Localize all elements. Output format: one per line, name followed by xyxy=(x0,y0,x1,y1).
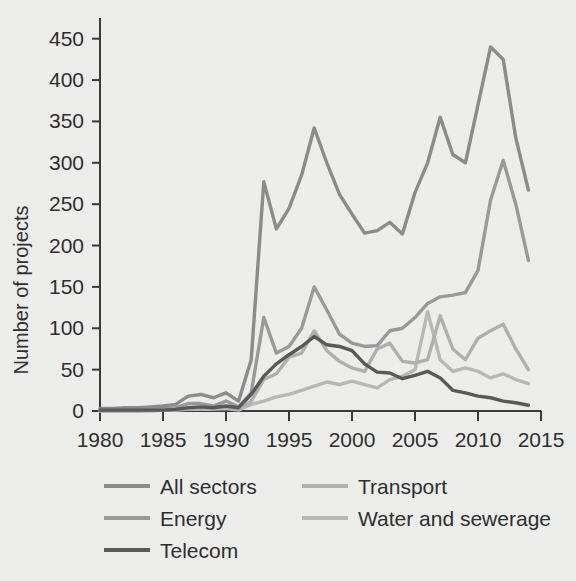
legend-label: Transport xyxy=(358,475,447,498)
x-tick-label: 1980 xyxy=(77,428,124,451)
x-tick-label: 2000 xyxy=(329,428,376,451)
legend-label: All sectors xyxy=(160,475,257,498)
x-tick-label: 1995 xyxy=(266,428,313,451)
legend-label: Water and sewerage xyxy=(358,507,551,530)
series-line-transport xyxy=(100,316,528,411)
y-tick-label: 200 xyxy=(49,234,84,257)
legend-item-water-and-sewerage[interactable]: Water and sewerage xyxy=(302,507,551,530)
y-axis-ticks: 050100150200250300350400450 xyxy=(49,27,100,422)
x-axis-ticks: 19801985199019952000200520102015 xyxy=(77,411,565,451)
y-tick-label: 350 xyxy=(49,109,84,132)
legend-label: Energy xyxy=(160,507,227,530)
chart-legend: All sectorsEnergyTelecomTransportWater a… xyxy=(0,462,576,581)
y-tick-label: 0 xyxy=(72,399,84,422)
series-line-telecom xyxy=(100,337,528,411)
y-tick-label: 50 xyxy=(61,358,84,381)
legend-item-transport[interactable]: Transport xyxy=(302,475,447,498)
legend-item-energy[interactable]: Energy xyxy=(104,507,227,530)
y-tick-label: 450 xyxy=(49,27,84,50)
x-tick-label: 2015 xyxy=(518,428,565,451)
series-line-water-and-sewerage xyxy=(100,312,528,411)
chart-figure: Number of projects 050100150200250300350… xyxy=(0,0,576,581)
y-tick-label: 300 xyxy=(49,151,84,174)
series-line-all-sectors xyxy=(100,47,528,409)
data-series-group xyxy=(100,47,528,411)
y-tick-label: 150 xyxy=(49,275,84,298)
legend-label: Telecom xyxy=(160,539,238,562)
y-tick-label: 250 xyxy=(49,192,84,215)
x-tick-label: 2010 xyxy=(455,428,502,451)
x-tick-label: 1985 xyxy=(140,428,187,451)
series-line-energy xyxy=(100,160,528,410)
y-tick-label: 100 xyxy=(49,316,84,339)
y-axis-title: Number of projects xyxy=(10,206,32,375)
x-tick-label: 2005 xyxy=(392,428,439,451)
y-tick-label: 400 xyxy=(49,68,84,91)
legend-item-telecom[interactable]: Telecom xyxy=(104,539,238,562)
legend-item-all-sectors[interactable]: All sectors xyxy=(104,475,257,498)
x-tick-label: 1990 xyxy=(203,428,250,451)
